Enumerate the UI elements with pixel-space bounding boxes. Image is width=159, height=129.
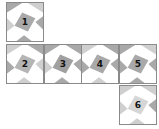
- face-label: 5: [120, 45, 156, 83]
- face-4: 4: [81, 44, 119, 84]
- face-3: 3: [44, 44, 82, 84]
- face-label: 1: [7, 3, 43, 41]
- face-label: 2: [7, 45, 43, 83]
- face-6: 6: [119, 85, 157, 125]
- face-5: 5: [119, 44, 157, 84]
- face-label: 6: [120, 86, 156, 124]
- face-label: 3: [45, 45, 81, 83]
- face-2: 2: [6, 44, 44, 84]
- face-label: 4: [82, 45, 118, 83]
- face-1: 1: [6, 2, 44, 42]
